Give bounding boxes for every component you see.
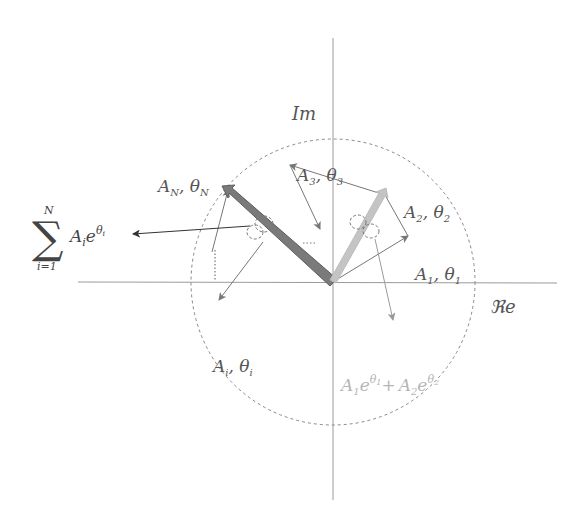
partial-sum-label: A1eθ1+A2eθ2 bbox=[339, 373, 439, 397]
real-axis-label: ℜe bbox=[490, 296, 516, 317]
sum-term: Aieθi bbox=[68, 224, 106, 249]
phasor-a2-label: A2, θ2 bbox=[402, 202, 450, 224]
sum-leader-arrow bbox=[133, 226, 250, 234]
phasor-an-arrow bbox=[212, 190, 228, 252]
sigma-symbol: ∑ bbox=[32, 212, 63, 263]
resultant-sum-arrow bbox=[222, 185, 337, 286]
phasor-ai-arrow bbox=[219, 242, 263, 300]
resultant-callout-ellipse-2 bbox=[247, 225, 263, 239]
phasor-a3-label: A3, θ3 bbox=[295, 165, 343, 187]
real-axis bbox=[78, 282, 557, 283]
phasor-a1-label: A1, θ1 bbox=[413, 264, 461, 286]
phasor-an-label: AN, θN bbox=[156, 176, 210, 198]
partial-sum-arrow bbox=[330, 188, 388, 283]
phasor-diagram: Im ℜe N ∑ i=1 Aieθi AN, θN A3, θ3 A2, θ2… bbox=[0, 0, 581, 521]
phasor-ai-label: Ai, θi bbox=[211, 356, 253, 378]
imaginary-axis-label: Im bbox=[291, 103, 316, 124]
sum-lower-limit: i=1 bbox=[37, 260, 57, 273]
